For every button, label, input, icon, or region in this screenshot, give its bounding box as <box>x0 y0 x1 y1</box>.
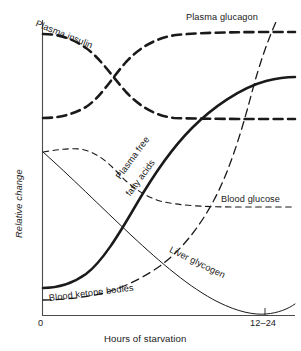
x-axis-label: Hours of starvation <box>104 333 186 344</box>
chart-plot-area <box>0 0 301 351</box>
label-plasma-glucagon: Plasma glucagon <box>186 12 258 23</box>
curve-plasma-free-fatty-acids <box>43 77 295 288</box>
y-axis-label: Relative change <box>14 169 25 238</box>
x-tick-label-0: 0 <box>38 318 43 329</box>
curve-blood-ketone-bodies <box>43 22 276 300</box>
axis-group <box>42 20 295 316</box>
starvation-metabolism-figure: Plasma insulin Plasma glucagon Plasma fr… <box>0 0 301 351</box>
label-blood-glucose: Blood glucose <box>221 194 280 205</box>
x-tick-label-12-24: 12–24 <box>250 318 276 329</box>
